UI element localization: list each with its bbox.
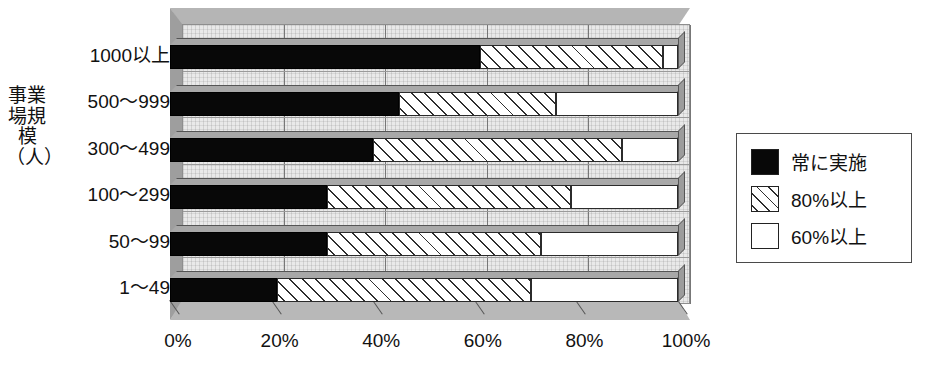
- bar-4[interactable]: [170, 185, 678, 209]
- bar-segment[interactable]: [556, 92, 678, 116]
- category-label-100-299: 100～299: [54, 179, 170, 206]
- bar-end-cap: [678, 124, 685, 162]
- gridline-100: [690, 25, 691, 304]
- bar-segment[interactable]: [399, 92, 556, 116]
- bar-end-cap: [678, 171, 685, 209]
- category-label-1-49: 1～49: [54, 272, 170, 299]
- legend-label-60-plus: 60%以上: [791, 222, 867, 249]
- category-label-300-499: 300～499: [54, 133, 170, 160]
- bar-segment[interactable]: [531, 278, 678, 302]
- x-tick-label-60: 60%: [464, 330, 502, 352]
- legend-swatch-white-icon: [751, 223, 779, 249]
- x-axis-labels: 0%20%40%60%80%100%: [170, 330, 710, 360]
- legend-swatch-black-icon: [751, 149, 779, 175]
- bar-top-face: [170, 271, 685, 278]
- bar-top-face: [170, 85, 685, 92]
- bar-6[interactable]: [170, 278, 678, 302]
- category-label-500-999: 500～999: [54, 86, 170, 113]
- x-tick-label-100: 100%: [662, 330, 711, 352]
- bar-segment[interactable]: [170, 92, 399, 116]
- x-tick-label-40: 40%: [362, 330, 400, 352]
- bar-top-face: [170, 38, 685, 45]
- bar-segment[interactable]: [170, 45, 480, 69]
- legend: 常に実施 80%以上 60%以上: [736, 133, 912, 263]
- legend-label-80-plus: 80%以上: [791, 185, 867, 212]
- bar-segment[interactable]: [327, 232, 540, 256]
- legend-label-always: 常に実施: [791, 148, 867, 175]
- bar-segment[interactable]: [277, 278, 531, 302]
- x-tick-label-20: 20%: [261, 330, 299, 352]
- bar-series-group: [170, 8, 690, 320]
- bar-end-cap: [678, 78, 685, 116]
- x-tick-label-80: 80%: [565, 330, 603, 352]
- bar-segment[interactable]: [571, 185, 678, 209]
- bar-2[interactable]: [170, 92, 678, 116]
- bar-segment[interactable]: [170, 138, 373, 162]
- bar-1[interactable]: [170, 45, 678, 69]
- y-axis-title: 事業場規模 （人）: [6, 86, 48, 168]
- bar-top-face: [170, 178, 685, 185]
- bar-segment[interactable]: [373, 138, 622, 162]
- legend-item-80-plus[interactable]: 80%以上: [751, 180, 911, 217]
- plot-area: [170, 8, 690, 320]
- bar-top-face: [170, 225, 685, 232]
- legend-swatch-hatch-icon: [751, 186, 779, 212]
- bar-segment[interactable]: [327, 185, 571, 209]
- bar-segment[interactable]: [480, 45, 663, 69]
- x-tick-label-0: 0%: [164, 330, 191, 352]
- bar-segment[interactable]: [170, 232, 327, 256]
- bar-segment[interactable]: [170, 185, 327, 209]
- category-label-1000-plus: 1000以上: [54, 40, 170, 67]
- legend-item-always[interactable]: 常に実施: [751, 143, 911, 180]
- category-axis-labels: 1000以上 500～999 300～499 100～299 50～99 1～4…: [54, 22, 170, 308]
- bar-segment[interactable]: [622, 138, 678, 162]
- bar-top-face: [170, 131, 685, 138]
- bar-3[interactable]: [170, 138, 678, 162]
- bar-segment[interactable]: [170, 278, 277, 302]
- category-label-50-99: 50～99: [54, 226, 170, 253]
- bar-5[interactable]: [170, 232, 678, 256]
- bar-end-cap: [678, 31, 685, 69]
- bar-segment[interactable]: [541, 232, 678, 256]
- legend-item-60-plus[interactable]: 60%以上: [751, 217, 911, 254]
- stacked-bar-chart: 事業場規模 （人） 1000以上 500～999 300～499 100～299…: [0, 0, 925, 389]
- bar-end-cap: [678, 264, 685, 302]
- bar-segment[interactable]: [663, 45, 678, 69]
- bar-end-cap: [678, 218, 685, 256]
